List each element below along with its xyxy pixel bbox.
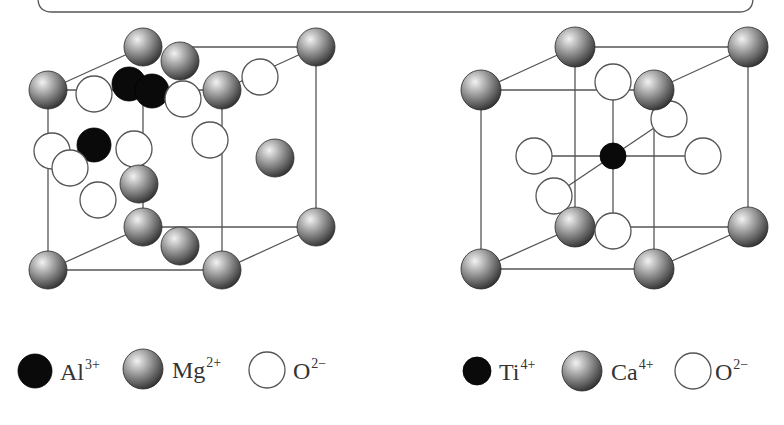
legend-label: Ca4+ [611, 357, 654, 385]
shaded-sphere-icon [123, 349, 163, 389]
shaded-sphere-icon [562, 351, 602, 391]
oxygen-ion-sphere [80, 182, 116, 218]
mg-ion-sphere [256, 139, 294, 177]
ca-ion-sphere [728, 207, 768, 247]
legend-spinel-item-o: O2− [249, 352, 326, 388]
mg-ion-sphere [297, 28, 335, 66]
open-circle-icon [249, 352, 285, 388]
legend-label: Ti4+ [499, 357, 535, 385]
ca-ion-sphere [555, 207, 595, 247]
oxygen-ion-sphere [242, 59, 278, 95]
filled-circle-icon [463, 357, 491, 385]
oxygen-ion-sphere [685, 138, 721, 174]
perovskite-unit-cell-diagram [461, 27, 768, 289]
ca-ion-sphere [634, 249, 674, 289]
oxygen-ion-sphere [165, 81, 201, 117]
ca-ion-sphere [461, 249, 501, 289]
ca-ion-sphere [634, 70, 674, 110]
legend-perovskite-item-ti: Ti4+ [463, 357, 535, 385]
oxygen-ion-sphere [192, 122, 228, 158]
mg-ion-sphere [161, 42, 199, 80]
legend-perovskite-item-ca: Ca4+ [562, 351, 654, 391]
ti-ion-sphere [600, 143, 626, 169]
oxygen-ion-sphere [516, 138, 552, 174]
al-ion-sphere [135, 74, 169, 108]
mg-ion-sphere [29, 251, 67, 289]
mg-ion-sphere [124, 28, 162, 66]
mg-ion-sphere [297, 208, 335, 246]
spinel-unit-cell-diagram [29, 28, 335, 289]
legend-label: Al3+ [60, 357, 100, 385]
ca-ion-sphere [728, 27, 768, 67]
mg-ion-sphere [161, 227, 199, 265]
crystal-structure-figure: Al3+Mg2+O2− Ti4+Ca4+O2− [0, 0, 784, 425]
mg-ion-sphere [124, 208, 162, 246]
legend-perovskite-item-o: O2− [675, 353, 748, 389]
legend-label: O2− [715, 357, 748, 385]
filled-circle-icon [18, 354, 52, 388]
mg-ion-sphere [120, 165, 158, 203]
legend-perovskite: Ti4+Ca4+O2− [463, 351, 748, 391]
mg-ion-sphere [203, 71, 241, 109]
legend-label: O2− [293, 356, 326, 384]
oxygen-ion-sphere [116, 131, 152, 167]
oxygen-ion-sphere [76, 76, 112, 112]
mg-ion-sphere [29, 71, 67, 109]
spinel-atoms [29, 28, 335, 289]
legend-label: Mg2+ [172, 355, 221, 383]
oxygen-ion-sphere [595, 64, 631, 100]
legend-spinel: Al3+Mg2+O2− [18, 349, 326, 389]
legend-spinel-item-al: Al3+ [18, 354, 100, 388]
ca-ion-sphere [555, 27, 595, 67]
perovskite-atoms [461, 27, 768, 289]
legend-spinel-item-mg: Mg2+ [123, 349, 221, 389]
oxygen-ion-sphere [52, 150, 88, 186]
ca-ion-sphere [461, 70, 501, 110]
oxygen-ion-sphere [595, 213, 631, 249]
mg-ion-sphere [203, 251, 241, 289]
top-banner-box [38, 0, 753, 12]
open-circle-icon [675, 353, 711, 389]
